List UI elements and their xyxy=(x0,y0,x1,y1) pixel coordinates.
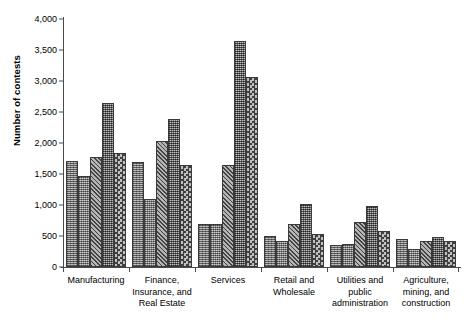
bar xyxy=(246,77,258,267)
x-tick-mark xyxy=(261,267,262,272)
bar xyxy=(408,249,420,267)
y-tick-label: 4,000 xyxy=(34,14,57,24)
bar-group xyxy=(129,19,195,267)
y-tick-label: 2,500 xyxy=(34,107,57,117)
x-axis-ticks xyxy=(63,267,459,273)
x-tick-mark xyxy=(129,267,130,272)
bar xyxy=(312,234,324,267)
bar-group xyxy=(195,19,261,267)
bar-group xyxy=(261,19,327,267)
x-tick-label: Retail andWholesale xyxy=(261,275,327,310)
bar xyxy=(102,103,114,267)
x-tick-mark xyxy=(327,267,328,272)
x-tick-mark xyxy=(195,267,196,272)
x-tick-label: Services xyxy=(195,275,261,310)
bar xyxy=(78,176,90,267)
bar xyxy=(222,165,234,267)
bar-group xyxy=(327,19,393,267)
y-tick-label: 2,000 xyxy=(34,138,57,148)
bar xyxy=(198,224,210,267)
bar xyxy=(156,141,168,267)
bar xyxy=(444,241,456,267)
y-tick-label: 500 xyxy=(42,231,57,241)
bar-chart: Number of contests 05001,0001,5002,0002,… xyxy=(0,0,467,321)
bar xyxy=(288,224,300,267)
bar xyxy=(210,224,222,267)
bar-group xyxy=(393,19,459,267)
y-tick-label: 0 xyxy=(52,262,57,272)
bar xyxy=(144,199,156,267)
x-tick-label: Finance,Insurance, andReal Estate xyxy=(129,275,195,310)
x-tick-label: Agriculture,mining, andconstruction xyxy=(393,275,459,310)
y-tick-label: 1,500 xyxy=(34,169,57,179)
bar xyxy=(366,206,378,267)
y-tick-label: 1,000 xyxy=(34,200,57,210)
bar xyxy=(180,165,192,267)
x-axis-labels: ManufacturingFinance,Insurance, andReal … xyxy=(63,275,459,310)
y-tick-label: 3,500 xyxy=(34,45,57,55)
bar xyxy=(276,241,288,267)
bar xyxy=(66,161,78,267)
bar-group xyxy=(63,19,129,267)
bar xyxy=(300,204,312,267)
x-tick-label: Manufacturing xyxy=(63,275,129,310)
bar xyxy=(264,236,276,267)
x-tick-mark xyxy=(393,267,394,272)
bar xyxy=(420,241,432,267)
bar xyxy=(90,157,102,267)
bar-groups xyxy=(63,19,459,267)
y-tick-label: 3,000 xyxy=(34,76,57,86)
x-tick-mark xyxy=(458,267,459,272)
x-tick-label: Utilities andpublicadministration xyxy=(327,275,393,310)
bar xyxy=(378,231,390,267)
bar xyxy=(342,244,354,267)
bar xyxy=(396,239,408,267)
bar xyxy=(114,153,126,267)
x-tick-mark xyxy=(63,267,64,272)
bar xyxy=(432,237,444,267)
bar xyxy=(354,222,366,267)
bar xyxy=(132,162,144,267)
bar xyxy=(168,119,180,267)
y-axis-title: Number of contests xyxy=(11,41,22,161)
bar xyxy=(234,41,246,267)
bar xyxy=(330,245,342,267)
